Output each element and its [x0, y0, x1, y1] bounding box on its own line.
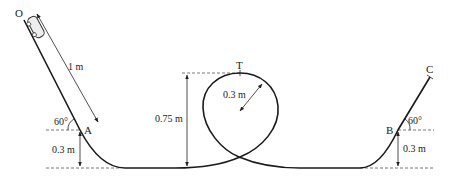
label-T: T	[236, 59, 243, 71]
label-B: B	[386, 124, 393, 136]
label-angle-right: 60°	[408, 115, 422, 126]
label-incline-length: 1 m	[68, 61, 84, 72]
label-A: A	[84, 124, 92, 136]
track-diagram: O A T B C 1 m 60° 0.3 m 0.75 m 0.3 m 60°…	[0, 0, 450, 180]
label-loop-radius: 0.3 m	[223, 89, 246, 100]
reference-lines	[46, 73, 434, 168]
label-height-A: 0.3 m	[52, 144, 75, 155]
label-O: O	[15, 7, 23, 19]
label-C: C	[426, 63, 433, 75]
angle-arc-left	[68, 119, 74, 130]
label-angle-left: 60°	[54, 116, 68, 127]
label-loop-height: 0.75 m	[155, 113, 183, 124]
label-height-B: 0.3 m	[403, 143, 426, 154]
